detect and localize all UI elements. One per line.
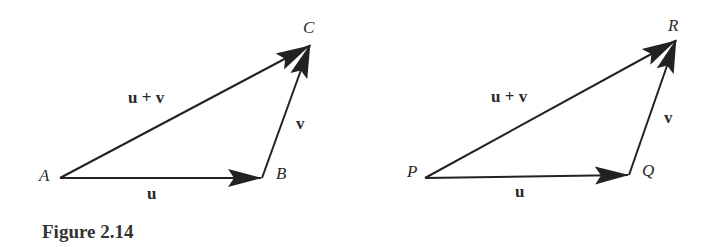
vector-addition-diagrams <box>0 0 709 247</box>
point-label-b: B <box>276 164 286 184</box>
point-label-r: R <box>668 16 678 36</box>
vector-label-v: v <box>296 114 305 134</box>
vector-label-v: v <box>664 108 673 128</box>
triangle-pqr <box>425 40 676 178</box>
vector-v-arrow <box>262 45 310 178</box>
figure-caption: Figure 2.14 <box>42 221 133 243</box>
point-label-p: P <box>407 162 417 182</box>
vector-u-arrow <box>425 175 628 178</box>
triangle-abc <box>60 45 310 178</box>
vector-label-u: u <box>515 182 524 202</box>
point-label-a: A <box>39 166 49 186</box>
vector-label-u: u <box>147 184 156 204</box>
point-label-c: C <box>303 18 314 38</box>
vector-label-sum: u + v <box>128 88 164 108</box>
vector-sum-arrow <box>60 46 309 178</box>
vector-sum-arrow <box>425 41 675 178</box>
vector-label-sum: u + v <box>491 87 527 107</box>
point-label-q: Q <box>642 161 654 181</box>
